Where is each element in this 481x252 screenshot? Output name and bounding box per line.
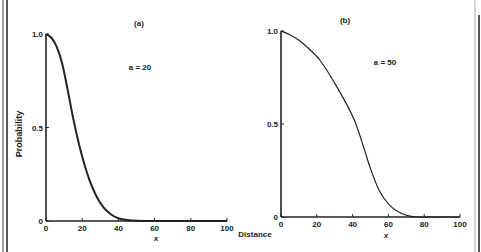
shared-x-axis-label: Distance (238, 230, 272, 239)
x-tick-label: 80 (186, 224, 195, 233)
y-tick-label: 0 (274, 213, 279, 222)
x-axis-label: x (153, 234, 159, 243)
x-tick-label: 60 (384, 220, 393, 229)
x-tick-label: 0 (279, 220, 284, 229)
x-axis-label: x (383, 231, 389, 240)
probability-curve (281, 31, 460, 217)
x-tick-label: 0 (44, 224, 49, 233)
y-axis-label: Probability (14, 111, 24, 158)
panel-label: (b) (340, 16, 351, 25)
y-tick-label: 1.0 (267, 27, 279, 36)
x-tick-label: 60 (150, 224, 159, 233)
y-tick-label: 1.0 (32, 30, 44, 39)
panel-b: 02040608010000.51.0(b)a = 50x (267, 16, 467, 240)
x-tick-label: 40 (114, 224, 123, 233)
parameter-annotation: a = 50 (374, 58, 397, 67)
y-tick-label: 0 (39, 217, 44, 226)
y-tick-label: 0.5 (267, 120, 279, 129)
figure: 02040608010000.51.0(a)a = 20x 0204060801… (0, 0, 481, 252)
panel-a: 02040608010000.51.0(a)a = 20x (32, 19, 234, 243)
x-tick-label: 80 (420, 220, 429, 229)
panel-label: (a) (134, 19, 144, 28)
x-tick-label: 100 (453, 220, 467, 229)
x-tick-label: 20 (312, 220, 321, 229)
x-tick-label: 40 (348, 220, 357, 229)
x-tick-label: 100 (220, 224, 234, 233)
x-tick-label: 20 (78, 224, 87, 233)
y-tick-label: 0.5 (32, 124, 44, 133)
parameter-annotation: a = 20 (129, 63, 152, 72)
